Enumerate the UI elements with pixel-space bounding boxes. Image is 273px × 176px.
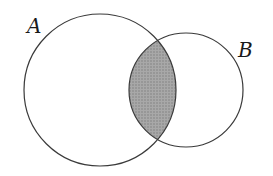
- set-b-label: B: [237, 38, 253, 62]
- set-a-label: A: [25, 14, 41, 38]
- venn-diagram: A B: [0, 0, 273, 176]
